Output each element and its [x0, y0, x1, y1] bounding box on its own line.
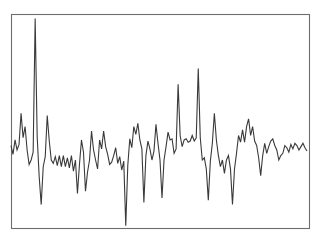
figure-canvas	[0, 0, 321, 244]
plot-svg	[0, 0, 321, 244]
waveform-line-series	[11, 18, 307, 225]
plot-border	[12, 15, 310, 229]
